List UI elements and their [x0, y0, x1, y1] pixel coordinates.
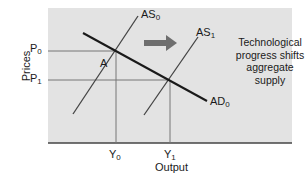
- diagram-canvas: [0, 0, 308, 179]
- ad0-label: AD0: [210, 96, 230, 109]
- p0-label: P0: [30, 43, 42, 56]
- x-axis-label: Output: [155, 162, 188, 173]
- caption-annotation: Technological progress shifts aggregate …: [232, 36, 308, 86]
- y0-label: Y0: [109, 149, 121, 162]
- p1-label: P1: [30, 73, 42, 86]
- as1-label: AS1: [196, 27, 215, 40]
- as0-label: AS0: [141, 9, 160, 22]
- equilibrium-a-label: A: [100, 58, 107, 69]
